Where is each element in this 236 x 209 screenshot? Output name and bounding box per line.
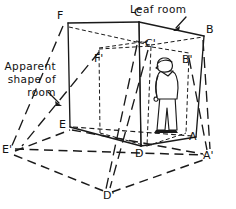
vertex-label-D: D	[135, 148, 143, 159]
dashed-wall-cp-vertical	[147, 47, 151, 146]
apparent-edge-ep-dp	[14, 155, 106, 192]
apparent-floor-outline	[14, 127, 206, 192]
apparent-shape-label-line1: Apparent	[0, 60, 56, 73]
projected-room-outline	[69, 27, 203, 146]
figure-trousers	[157, 96, 177, 130]
vertex-label-A: A	[189, 131, 197, 142]
true-room-outline	[68, 22, 204, 146]
vertex-label-Cprime: C'	[145, 38, 156, 49]
ray-c-inner-to-dp	[106, 45, 137, 189]
ceiling-edge-c-b	[139, 22, 204, 36]
ames-room-figure: Leaf room Apparent shape of room F C B F…	[0, 0, 236, 209]
leaf-room-arrow-line	[176, 17, 186, 28]
apparent-shape-label-line2: shape of	[0, 73, 56, 86]
vertex-label-Fprime: F'	[94, 53, 103, 64]
vertex-label-Bprime: B'	[182, 54, 193, 65]
figure-canvas	[0, 0, 236, 209]
ray-cp-to-dp	[110, 50, 148, 188]
observer-figure	[154, 58, 178, 133]
vertex-label-C: C	[134, 7, 142, 18]
projection-rays	[11, 26, 210, 189]
apparent-edge-ep-ap	[15, 149, 204, 155]
apparent-edge-dp-ap	[112, 159, 206, 192]
vertex-label-E: E	[59, 119, 66, 130]
vertex-label-F: F	[57, 10, 63, 21]
dashed-wall-bp-vertical	[186, 55, 189, 133]
vertex-label-Eprime: E'	[2, 144, 12, 155]
apparent-shape-label-line3: room	[0, 86, 56, 99]
vertex-label-Aprime: A'	[203, 150, 214, 161]
figure-hand	[154, 97, 158, 101]
dashed-ceiling-f-cp	[69, 27, 150, 45]
vertex-label-B: B	[206, 24, 214, 35]
ceiling-edge-f-c	[68, 22, 139, 23]
vertex-label-Dprime: D'	[103, 190, 115, 201]
dashed-ceiling-cp-b	[151, 37, 203, 45]
apparent-edge-ep-e	[15, 130, 70, 151]
wall-edge-f-e	[68, 23, 70, 127]
wall-edge-b-a	[196, 36, 204, 137]
